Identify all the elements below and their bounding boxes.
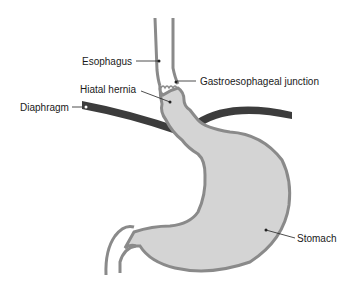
esophagus — [155, 18, 178, 86]
esophagus-label: Esophagus — [82, 56, 132, 67]
diaphragm-dot — [85, 106, 88, 109]
esophagus-dot — [158, 60, 161, 63]
hiatal-hernia-dot — [169, 101, 172, 104]
gej-dot — [175, 81, 178, 84]
stomach-dot — [265, 229, 268, 232]
stomach-label: Stomach — [297, 233, 336, 244]
diaphragm-label: Diaphragm — [20, 102, 69, 113]
diaphragm-right — [196, 107, 292, 126]
hiatal-hernia-diagram: Esophagus Hiatal hernia Diaphragm Gastro… — [0, 0, 357, 293]
gastroesophageal-junction-label: Gastroesophageal junction — [200, 76, 319, 87]
hiatal-hernia-label: Hiatal hernia — [80, 84, 137, 95]
